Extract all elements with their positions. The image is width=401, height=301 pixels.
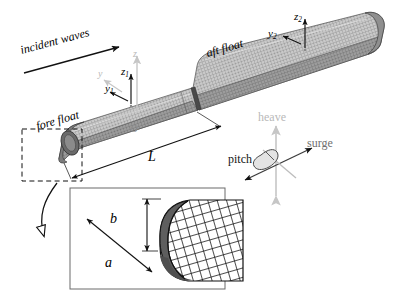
length-label: L [148,150,156,164]
origin-label: O [130,123,138,134]
magnified-inset [70,188,250,290]
fore-z-axis-label: z1 [121,66,129,79]
dimension-a-label: a [105,256,112,270]
heave-label: heave [258,111,286,123]
global-y-axis-label: y [98,69,102,79]
aft-z-axis-subscript: 2 [298,16,302,24]
aft-y-axis-subscript: 2 [273,33,277,41]
figure-canvas: incident waves fore float aft float L O … [0,0,401,301]
fore-z-axis-subscript: 1 [125,71,129,79]
global-z-axis-label: z [133,49,137,59]
callout-leader-arrow [42,183,57,236]
aft-y-axis-label: y2 [268,28,277,41]
pitch-label: pitch [228,153,252,165]
surge-label: surge [307,137,333,149]
dimension-b-label: b [110,212,117,226]
fore-y-axis-label: y1 [105,83,114,96]
motion-axes-triad [245,126,312,196]
aft-float-body [193,12,384,110]
aft-z-axis-label: z2 [294,11,302,24]
fore-y-axis-subscript: 1 [110,88,114,96]
fore-float-body [58,88,198,163]
